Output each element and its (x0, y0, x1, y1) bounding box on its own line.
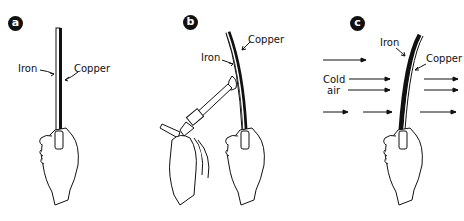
torch-icon (160, 84, 232, 138)
hand-icon (170, 135, 209, 205)
hand-icon (384, 128, 423, 205)
panel-c: c Iron Copper Cold air (308, 0, 464, 221)
cold-air-arrow-icon (323, 58, 458, 114)
panel-a: a Iron Copper (0, 0, 150, 221)
bimetal-strip-heated-illustration (150, 0, 308, 221)
hand-icon (40, 128, 79, 205)
hand-icon (226, 128, 265, 205)
bimetal-strip-cooled-illustration (308, 0, 464, 221)
bimetal-strip-straight-illustration (0, 0, 150, 221)
panel-b: b Copper Iron (150, 0, 308, 221)
